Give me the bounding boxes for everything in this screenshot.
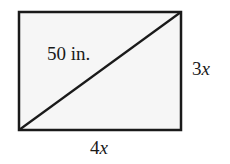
height-label: 3x — [192, 59, 210, 78]
height-variable: x — [202, 58, 210, 79]
height-coefficient: 3 — [192, 58, 202, 79]
width-variable: x — [100, 137, 108, 158]
width-label: 4x — [90, 138, 108, 157]
diagonal-length-label: 50 in. — [47, 44, 90, 63]
rectangle-diagram — [0, 0, 230, 164]
diagonal-length-text: 50 in. — [47, 43, 90, 64]
width-coefficient: 4 — [90, 137, 100, 158]
